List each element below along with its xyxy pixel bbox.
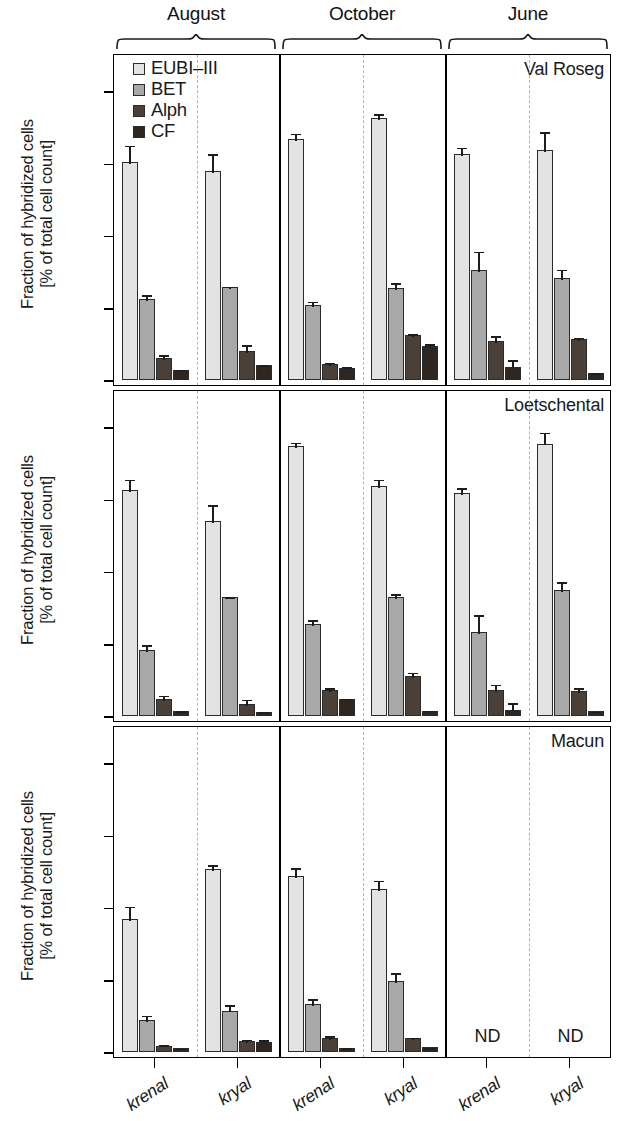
x-tick — [154, 1058, 156, 1068]
legend-swatch-icon — [133, 84, 145, 96]
error-bar-cap — [342, 1048, 352, 1050]
bar — [322, 690, 338, 716]
error-bar-cap — [508, 360, 518, 362]
error-bar-cap — [425, 1048, 435, 1050]
error-bar-cap — [408, 334, 418, 336]
error-bar-cap — [457, 148, 467, 150]
bar — [405, 335, 421, 380]
y-tick — [104, 236, 113, 238]
error-bar — [478, 615, 480, 634]
error-bar-cap — [408, 673, 418, 675]
error-bar-cap — [208, 505, 218, 507]
error-bar-cap — [540, 433, 550, 435]
panel-title: Loetschental — [504, 395, 604, 416]
x-tick-label-krenal: krenal — [435, 1073, 503, 1121]
error-bar-cap — [342, 367, 352, 369]
x-tick-label-kryal: kryal — [518, 1073, 586, 1121]
error-bar-cap — [291, 443, 301, 445]
legend-item: Alph — [133, 100, 218, 121]
bar — [239, 351, 255, 380]
error-bar-cap — [225, 597, 235, 599]
error-bar — [544, 132, 546, 152]
error-bar-cap — [159, 355, 169, 357]
bar — [122, 162, 138, 380]
y-tick — [104, 908, 113, 910]
y-axis-title: Fraction of hybridized cells[% of total … — [18, 720, 56, 1052]
error-bar-cap — [259, 365, 269, 367]
bar — [322, 364, 338, 380]
legend-swatch-icon — [133, 126, 145, 138]
error-bar-cap — [557, 270, 567, 272]
error-bar-cap — [142, 295, 152, 297]
error-bar-cap — [591, 712, 601, 714]
panel-title: Macun — [551, 731, 604, 752]
month-brace-august — [116, 34, 276, 50]
bar — [305, 1004, 321, 1052]
bar — [537, 150, 553, 380]
bar — [256, 365, 272, 380]
nd-label: ND — [475, 1026, 501, 1047]
y-tick — [104, 763, 113, 765]
site-divider — [529, 55, 530, 385]
bar — [139, 650, 155, 716]
y-axis-title: Fraction of hybridized cells[% of total … — [18, 384, 56, 716]
y-tick — [104, 427, 113, 429]
bar — [156, 358, 172, 380]
error-bar-cap — [325, 1036, 335, 1038]
bar — [222, 597, 238, 716]
legend-item: CF — [133, 121, 218, 142]
bar — [305, 624, 321, 716]
bar — [122, 919, 138, 1052]
y-axis-title-line1: Fraction of hybridized cells — [18, 791, 36, 981]
y-tick — [104, 1052, 113, 1054]
bar — [139, 1020, 155, 1052]
error-bar-cap — [176, 711, 186, 713]
bar — [454, 154, 470, 380]
error-bar-cap — [374, 881, 384, 883]
error-bar-cap — [457, 488, 467, 490]
bar — [537, 444, 553, 717]
x-tick-label-kryal: kryal — [352, 1073, 420, 1121]
legend-item: EUBI–III — [133, 58, 218, 79]
y-tick — [104, 644, 113, 646]
legend-label: EUBI–III — [151, 59, 218, 78]
month-label-october: October — [292, 3, 432, 25]
x-tick-label-krenal: krenal — [103, 1073, 171, 1121]
error-bar-cap — [474, 252, 484, 254]
x-tick-label-krenal: krenal — [269, 1073, 337, 1121]
error-bar-cap — [225, 1005, 235, 1007]
bar — [488, 690, 504, 716]
y-tick — [104, 716, 113, 718]
error-bar-cap — [291, 868, 301, 870]
month-brace-october — [282, 34, 442, 50]
error-bar-cap — [208, 154, 218, 156]
y-tick — [104, 836, 113, 838]
bar — [322, 1038, 338, 1052]
y-tick — [104, 164, 113, 166]
panel-title: Val Roseg — [524, 59, 604, 80]
bar — [205, 869, 221, 1052]
y-axis-title-line1: Fraction of hybridized cells — [18, 455, 36, 645]
error-bar-cap — [308, 620, 318, 622]
y-axis-title-line2: [% of total cell count] — [37, 48, 56, 380]
error-bar-cap — [591, 373, 601, 375]
error-bar-cap — [374, 114, 384, 116]
x-tick-label-kryal: kryal — [186, 1073, 254, 1121]
bar — [305, 305, 321, 380]
bar — [554, 278, 570, 380]
site-divider — [529, 391, 530, 721]
site-divider — [363, 55, 364, 385]
error-bar-cap — [391, 973, 401, 975]
y-axis-title: Fraction of hybridized cells[% of total … — [18, 48, 56, 380]
error-bar — [129, 480, 131, 493]
bar — [388, 981, 404, 1052]
y-tick — [104, 980, 113, 982]
error-bar-cap — [325, 363, 335, 365]
y-axis-title-line1: Fraction of hybridized cells — [18, 119, 36, 309]
bar — [422, 346, 438, 380]
bar — [139, 299, 155, 380]
bar — [288, 876, 304, 1052]
error-bar-cap — [125, 480, 135, 482]
figure-root: AugustOctoberJune Fraction of hybridized… — [0, 0, 618, 1121]
bar — [471, 270, 487, 380]
